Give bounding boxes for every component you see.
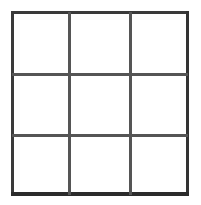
grid-cell-label bbox=[14, 137, 68, 192]
grid-cell-r2-c0[interactable] bbox=[14, 137, 68, 192]
grid-cell-r0-c0[interactable] bbox=[14, 14, 68, 73]
grid-cell-label bbox=[14, 76, 68, 134]
grid-cell-label bbox=[132, 137, 186, 192]
grid-cell-r2-c1[interactable] bbox=[71, 137, 129, 192]
grid-cell-r1-c2[interactable] bbox=[132, 76, 186, 134]
grid-outer-border-right bbox=[186, 11, 189, 196]
grid-outer-border-bottom bbox=[11, 192, 189, 196]
grid-cell-label bbox=[71, 137, 129, 192]
grid-cell-label bbox=[14, 14, 68, 73]
grid-cell-r0-c1[interactable] bbox=[71, 14, 129, 73]
grid-cell-r1-c0[interactable] bbox=[14, 76, 68, 134]
grid-cell-r1-c1[interactable] bbox=[71, 76, 129, 134]
grid-cell-label bbox=[132, 76, 186, 134]
grid-cell-label bbox=[132, 14, 186, 73]
grid-figure bbox=[11, 11, 189, 196]
grid-cell-label bbox=[71, 76, 129, 134]
grid-cell-r2-c2[interactable] bbox=[132, 137, 186, 192]
grid-cell-r0-c2[interactable] bbox=[132, 14, 186, 73]
grid-cell-label bbox=[71, 14, 129, 73]
